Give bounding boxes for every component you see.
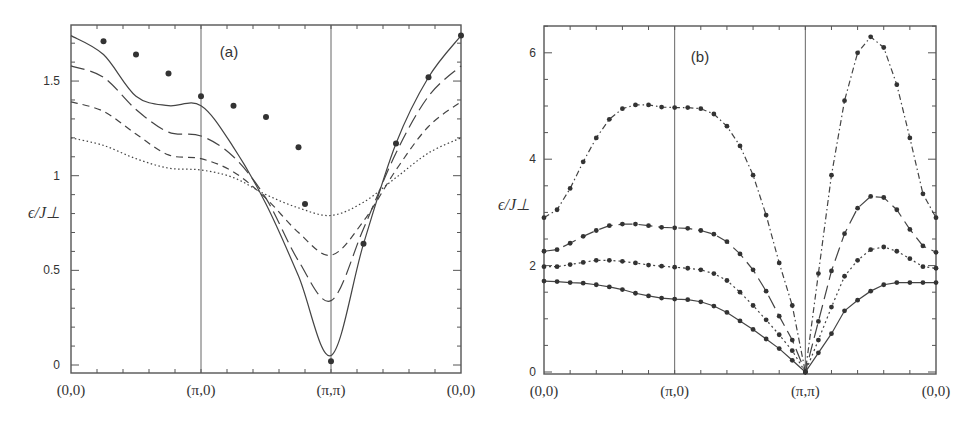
data-point-marker (777, 346, 782, 351)
data-point-marker (542, 264, 547, 269)
data-point-marker (868, 247, 873, 252)
y-tick-label: 1.5 (43, 74, 60, 88)
data-point-marker (263, 114, 269, 120)
data-point-marker (803, 370, 808, 375)
data-point-marker (659, 225, 664, 230)
data-point-marker (672, 225, 677, 230)
data-point-marker (698, 228, 703, 233)
data-point-marker (894, 207, 899, 212)
x-tick-label: (0,0) (530, 383, 559, 400)
data-point-marker (698, 267, 703, 272)
data-point-marker (659, 105, 664, 110)
data-point-marker (790, 338, 795, 343)
data-point-marker (607, 223, 612, 228)
data-point-marker (816, 271, 821, 276)
y-tick-label: 0 (53, 358, 60, 372)
data-point-marker (646, 223, 651, 228)
data-point-marker (764, 213, 769, 218)
data-point-marker (855, 258, 860, 263)
data-point-marker (166, 70, 172, 76)
x-tick-label: (0,0) (57, 382, 86, 399)
data-point-marker (751, 327, 756, 332)
data-point-marker (725, 278, 730, 283)
data-point-marker (816, 319, 821, 324)
data-point-marker (738, 251, 743, 256)
y-axis-title: ϵ/J⊥ (28, 204, 60, 221)
data-point-marker (894, 249, 899, 254)
data-point-marker (790, 348, 795, 353)
series-line-dot-dash (544, 247, 936, 372)
data-point-marker (894, 280, 899, 285)
panel-label: (b) (691, 48, 709, 65)
x-tick-label: (π,π) (317, 382, 346, 399)
data-point-marker (133, 52, 139, 58)
data-point-marker (764, 337, 769, 342)
data-point-marker (698, 106, 703, 111)
x-tick-label: (0,0) (447, 382, 476, 399)
data-point-marker (738, 290, 743, 295)
data-point-marker (555, 264, 560, 269)
data-point-marker (725, 124, 730, 129)
data-point-marker (790, 358, 795, 363)
data-point-marker (594, 258, 599, 263)
y-tick-label: 2 (529, 259, 536, 273)
data-point-marker (816, 350, 821, 355)
data-point-marker (725, 239, 730, 244)
data-point-marker (607, 284, 612, 289)
x-tick-label: (π,0) (660, 383, 689, 400)
data-point-marker (581, 281, 586, 286)
data-point-marker (868, 194, 873, 199)
y-tick-label: 4 (529, 152, 536, 166)
data-point-marker (934, 215, 939, 220)
series-line-long-dash (544, 196, 936, 372)
data-point-marker (764, 289, 769, 294)
data-point-marker (581, 260, 586, 265)
data-point-marker (842, 98, 847, 103)
data-point-marker (620, 222, 625, 227)
data-point-marker (555, 207, 560, 212)
data-point-marker (842, 274, 847, 279)
data-point-marker (725, 310, 730, 315)
data-point-marker (751, 267, 756, 272)
data-point-marker (777, 332, 782, 337)
data-point-marker (620, 287, 625, 292)
data-point-marker (751, 303, 756, 308)
data-point-marker (855, 298, 860, 303)
data-point-marker (907, 227, 912, 232)
data-point-marker (302, 201, 308, 207)
series-line-solid (544, 281, 936, 372)
data-point-marker (921, 244, 926, 249)
data-point-marker (581, 159, 586, 164)
data-point-marker (607, 117, 612, 122)
data-point-marker (328, 358, 334, 364)
data-point-marker (829, 269, 834, 274)
panel-a: 00.511.5(0,0)(π,0)(π,π)(0,0)ϵ/J⊥(a) (28, 25, 475, 399)
data-point-marker (711, 304, 716, 309)
data-point-marker (842, 308, 847, 313)
data-point-marker (633, 291, 638, 296)
data-point-marker (594, 282, 599, 287)
data-point-marker (685, 266, 690, 271)
data-point-marker (568, 186, 573, 191)
data-point-marker (894, 82, 899, 87)
data-point-marker (855, 206, 860, 211)
data-point-marker (777, 314, 782, 319)
data-point-marker (633, 222, 638, 227)
data-point-marker (555, 279, 560, 284)
data-point-marker (934, 280, 939, 285)
panel-b: 0246(0,0)(π,0)(π,π)(0,0)ϵ/J⊥(b) (498, 26, 950, 400)
data-point-marker (764, 317, 769, 322)
data-point-marker (777, 261, 782, 266)
y-tick-label: 6 (529, 46, 536, 60)
data-point-marker (816, 338, 821, 343)
data-point-marker (633, 103, 638, 108)
data-point-marker (921, 191, 926, 196)
data-point-marker (751, 173, 756, 178)
data-point-marker (620, 259, 625, 264)
data-point-marker (393, 141, 399, 147)
data-point-marker (881, 245, 886, 250)
data-point-marker (568, 280, 573, 285)
series-line-solid (71, 36, 461, 356)
data-point-marker (868, 289, 873, 294)
data-point-marker (921, 264, 926, 269)
